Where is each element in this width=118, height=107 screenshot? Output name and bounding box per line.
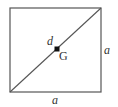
square-diagonal-diagram: d G a a bbox=[0, 0, 118, 107]
right-side-label: a bbox=[104, 43, 110, 57]
centroid-label: G bbox=[59, 49, 68, 63]
bottom-side-label: a bbox=[52, 93, 58, 107]
diagonal-label: d bbox=[47, 34, 54, 48]
